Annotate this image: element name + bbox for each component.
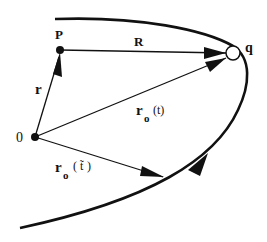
- origin-point: [31, 133, 39, 141]
- label-ro-t-arg: (t): [153, 103, 164, 117]
- label-r: r: [35, 81, 42, 97]
- label-R: R: [134, 34, 144, 49]
- vector-r-arrowhead-icon: [53, 52, 62, 77]
- label-ro-ttilde-arg-t: t̃: [80, 159, 84, 173]
- vector-ro-ttilde-arrowhead-icon: [140, 166, 164, 177]
- vector-ro-t-arrowhead-icon: [205, 58, 226, 72]
- label-ro-ttilde-main: r: [55, 159, 62, 175]
- label-ro-t-main: r: [136, 102, 143, 118]
- label-origin: 0: [16, 130, 23, 145]
- vector-ro-t: [35, 58, 226, 137]
- point-P: [56, 46, 64, 54]
- label-P: P: [55, 27, 63, 42]
- label-ro-ttilde-arg-open: (: [73, 159, 77, 173]
- vector-diagram: 0 P q r R r o (t) r o ( t̃ ): [0, 0, 267, 242]
- vector-R-arrowhead-icon: [204, 47, 226, 59]
- vector-R: [60, 50, 226, 53]
- label-ro-ttilde-sub: o: [63, 169, 69, 181]
- label-ro-ttilde-arg-close: ): [87, 159, 91, 173]
- point-q: [226, 46, 240, 60]
- label-ro-t-sub: o: [144, 112, 150, 124]
- label-q: q: [245, 40, 253, 55]
